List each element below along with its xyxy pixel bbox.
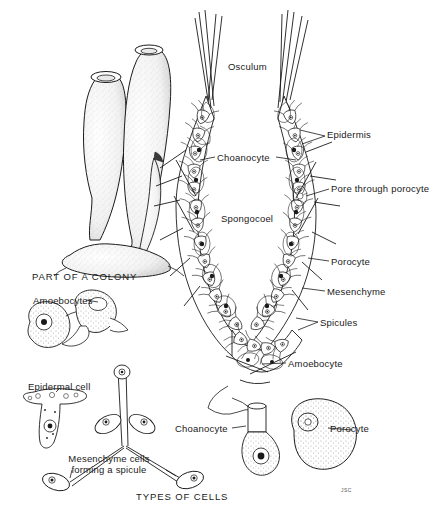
label-spicules: Spicules: [320, 317, 358, 328]
label-epidermal-cell: Epidermal cell: [28, 381, 90, 392]
mesenchyme-cells-line2: forming a spicule: [71, 464, 146, 475]
label-pore-through-porocyte: Pore through porocyte: [331, 183, 429, 194]
illustration-artwork: [0, 0, 443, 513]
label-choanocyte-wall: Choanocyte: [217, 152, 270, 163]
colony-drawing: [54, 45, 184, 277]
sponge-anatomy-figure: Osculum Epidermis Choanocyte Pore throug…: [0, 0, 443, 513]
label-amoebocyte-wall: Amoebocyte: [288, 358, 343, 369]
label-choanocyte-cell: Choanocyte: [175, 423, 228, 434]
label-porocyte-wall: Porocyte: [331, 256, 370, 267]
caption-types-of-cells: TYPES OF CELLS: [136, 491, 228, 502]
label-mesenchyme: Mesenchyme: [327, 286, 386, 297]
choanocyte-cell-drawing: [232, 398, 280, 475]
porocyte-cell-drawing: [292, 399, 357, 470]
artist-signature: JSC: [341, 487, 352, 493]
caption-part-of-a-colony: PART OF A COLONY: [32, 271, 137, 282]
mesenchyme-cells-line1: Mesenchyme cells: [68, 453, 149, 464]
label-osculum: Osculum: [228, 61, 267, 72]
label-mesenchyme-cells-forming-spicule: Mesenchyme cells forming a spicule: [54, 453, 164, 475]
label-spongocoel: Spongocoel: [221, 213, 273, 224]
label-porocyte-cell: Porocyte: [330, 423, 369, 434]
epidermal-cell-drawing: [23, 389, 86, 448]
label-amoebocytes: Amoebocytes: [33, 295, 93, 306]
label-epidermis: Epidermis: [327, 129, 371, 140]
